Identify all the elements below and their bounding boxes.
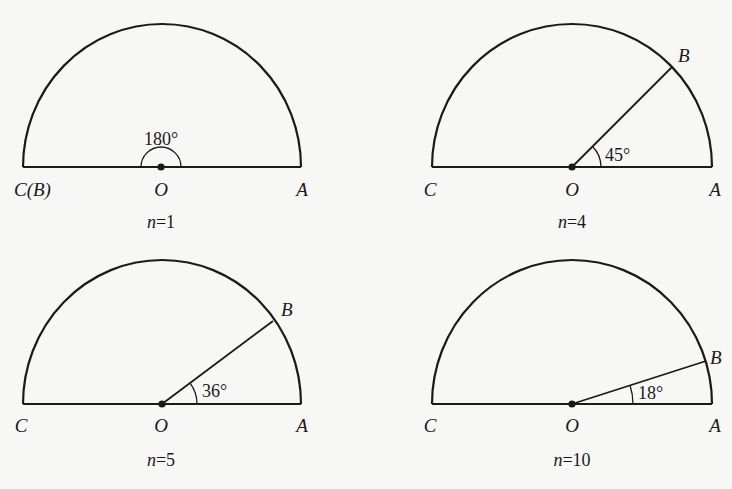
point-label-o: O [565, 179, 579, 200]
angle-label: 18° [638, 383, 663, 403]
panel-n5: 36° B C O A n=5 [15, 260, 309, 470]
panel-caption: n=5 [147, 450, 175, 470]
point-label-b: B [281, 299, 293, 320]
point-label-c: C [424, 179, 437, 200]
center-point [568, 163, 575, 170]
angle-arc-marker [593, 147, 602, 168]
angle-arc-marker [630, 385, 633, 404]
panel-caption: n=4 [558, 212, 586, 232]
point-label-c: C [15, 415, 28, 436]
angle-label: 36° [202, 381, 227, 401]
panel-n4: 45° B C O A n=4 [424, 24, 722, 232]
point-label-c: C [424, 415, 437, 436]
center-point [158, 400, 165, 407]
center-point [568, 400, 575, 407]
point-label-a: A [294, 179, 308, 200]
panel-caption: n=1 [147, 212, 175, 232]
angle-arc-marker [190, 383, 197, 404]
panel-n10: 18° B C O A n=10 [424, 260, 722, 470]
point-label-b: B [710, 347, 722, 368]
point-label-o: O [565, 415, 579, 436]
point-label-o: O [154, 179, 168, 200]
point-label-c-b: C(B) [14, 179, 51, 201]
angle-label: 180° [144, 129, 178, 149]
semicircle-arc [432, 260, 712, 404]
point-label-a: A [707, 179, 721, 200]
point-label-b: B [678, 45, 690, 66]
figure-canvas: 180° C(B) O A n=1 45° B C O A n=4 [0, 0, 732, 489]
point-label-o: O [154, 415, 168, 436]
semicircle-angle-figure: 180° C(B) O A n=1 45° B C O A n=4 [0, 0, 732, 489]
center-point [157, 163, 164, 170]
point-label-a: A [707, 415, 721, 436]
point-label-a: A [294, 415, 308, 436]
angle-label: 45° [605, 145, 630, 165]
panel-caption: n=10 [553, 450, 590, 470]
semicircle-arc [432, 24, 712, 167]
panel-n1: 180° C(B) O A n=1 [14, 24, 308, 232]
